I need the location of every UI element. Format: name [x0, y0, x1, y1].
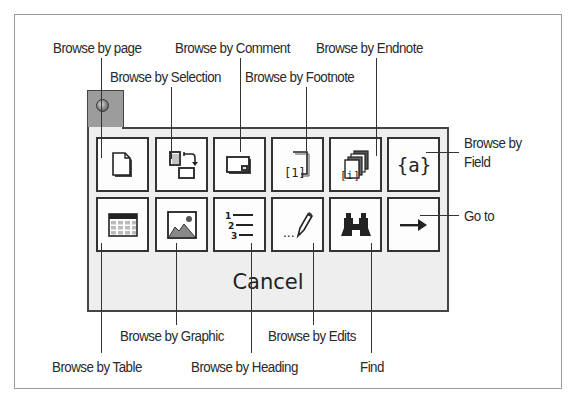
leader-line-heading	[251, 243, 252, 353]
svg-text:[i]: [i]	[340, 169, 360, 182]
leader-line-endnote	[376, 58, 377, 156]
toolbar-tab[interactable]	[87, 90, 124, 129]
svg-text:2: 2	[228, 221, 234, 231]
browse-by-edits-button[interactable]: ...	[271, 197, 324, 252]
callout-browse-by-page: Browse by page	[53, 39, 141, 57]
callout-find: Find	[360, 358, 384, 376]
svg-text:3: 3	[231, 231, 237, 241]
svg-text:1: 1	[225, 211, 231, 221]
footnote-icon: [1]	[281, 148, 315, 182]
callout-go-to: Go to	[464, 207, 494, 225]
cancel-button[interactable]: Cancel	[89, 262, 447, 302]
graphic-icon	[165, 209, 199, 241]
page-icon	[108, 149, 138, 181]
callout-browse-by-edits: Browse by Edits	[268, 327, 356, 345]
leader-line-footnote	[306, 87, 307, 151]
callout-browse-by-footnote: Browse by Footnote	[245, 68, 354, 86]
binoculars-icon	[338, 210, 374, 240]
heading-icon: 1 2 3	[223, 208, 257, 242]
circle-knob-icon	[96, 99, 109, 112]
callout-browse-by-graphic: Browse by Graphic	[120, 327, 224, 345]
edits-icon: ...	[281, 208, 315, 242]
table-icon	[106, 211, 140, 239]
browse-by-field-button[interactable]: {a}	[387, 137, 440, 192]
leader-line-page	[101, 58, 102, 158]
leader-line-table	[101, 243, 102, 353]
leader-line-go-to	[420, 215, 459, 216]
svg-text:{a}: {a}	[396, 154, 430, 176]
panel-tab-join	[89, 127, 122, 130]
leader-line-comment	[240, 58, 241, 152]
comment-icon	[224, 150, 256, 180]
callout-browse-by-endnote: Browse by Endnote	[316, 39, 423, 57]
endnote-icon: [i]	[338, 148, 374, 182]
browse-by-selection-button[interactable]	[155, 137, 208, 192]
browse-by-footnote-button[interactable]: [1]	[271, 137, 324, 192]
callout-browse-by-heading: Browse by Heading	[191, 358, 298, 376]
callout-browse-by-field-line2: Field	[464, 153, 490, 171]
browse-by-graphic-button[interactable]	[155, 197, 208, 252]
selection-icon	[165, 148, 199, 182]
browse-by-heading-button[interactable]: 1 2 3	[213, 197, 266, 252]
callout-browse-by-selection: Browse by Selection	[110, 68, 221, 86]
leader-line-graphic	[176, 243, 177, 325]
arrow-right-icon	[396, 215, 432, 235]
svg-text:...: ...	[283, 226, 294, 240]
leader-line-selection	[171, 87, 172, 159]
callout-browse-by-table: Browse by Table	[52, 358, 142, 376]
leader-line-find	[371, 243, 372, 353]
browse-by-endnote-button[interactable]: [i]	[329, 137, 382, 192]
callout-browse-by-field-line1: Browse by	[464, 134, 522, 152]
find-button[interactable]	[329, 197, 382, 252]
callout-browse-by-comment: Browse by Comment	[175, 39, 290, 57]
browse-by-page-button[interactable]	[96, 137, 149, 192]
go-to-button[interactable]	[387, 197, 440, 252]
browse-by-table-button[interactable]	[96, 197, 149, 252]
leader-line-edits	[313, 243, 314, 325]
field-icon: {a}	[396, 150, 432, 180]
svg-text:[1]: [1]	[284, 166, 306, 180]
leader-line-field	[426, 152, 459, 153]
